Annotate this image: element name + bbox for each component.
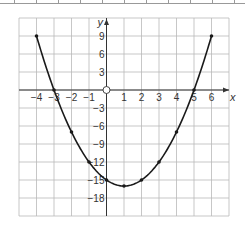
data-point <box>157 160 161 164</box>
y-tick-label: 3 <box>99 67 105 78</box>
x-tick-label: 2 <box>139 92 145 103</box>
data-point <box>87 160 91 164</box>
x-axis-arrow-icon <box>223 88 229 93</box>
tick-labels: −4−3−2−1123456963−3−6−9−12−15−18 <box>31 31 215 204</box>
x-tick-label: 1 <box>121 92 127 103</box>
parabola-graph: xy −4−3−2−1123456963−3−6−9−12−15−18 <box>0 0 245 226</box>
chart-figure: xy −4−3−2−1123456963−3−6−9−12−15−18 <box>0 0 245 226</box>
x-tick-label: −2 <box>66 92 78 103</box>
y-tick-label: −6 <box>93 121 105 132</box>
origin-marker <box>103 87 110 94</box>
data-point <box>175 130 179 134</box>
y-tick-label: −3 <box>93 103 105 114</box>
x-tick-label: 4 <box>174 92 180 103</box>
data-point <box>52 88 56 92</box>
y-tick-label: −9 <box>93 139 105 150</box>
data-point <box>70 130 74 134</box>
data-point <box>122 184 126 188</box>
y-tick-label: −18 <box>88 193 105 204</box>
data-point <box>140 178 144 182</box>
x-tick-label: −1 <box>83 92 95 103</box>
data-point <box>105 178 109 182</box>
data-point <box>192 88 196 92</box>
y-tick-label: 9 <box>99 31 105 42</box>
x-tick-label: 6 <box>209 92 215 103</box>
x-tick-label: −4 <box>31 92 43 103</box>
table-bottom-edge <box>0 0 245 4</box>
x-tick-label: 3 <box>156 92 162 103</box>
data-point <box>210 34 214 38</box>
data-point <box>35 34 39 38</box>
x-axis-label: x <box>229 91 236 103</box>
y-axis-arrow-icon <box>104 19 109 25</box>
y-tick-label: 6 <box>99 49 105 60</box>
